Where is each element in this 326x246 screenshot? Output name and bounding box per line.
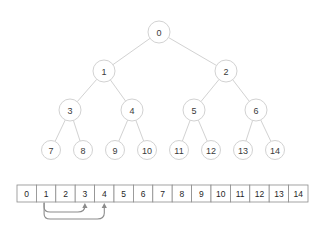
tree-edge-4-9	[119, 120, 128, 141]
tree-node-13: 13	[234, 141, 253, 160]
node-label-3: 3	[67, 106, 72, 116]
tree-node-4: 4	[121, 99, 143, 121]
array-cell-3: 3	[75, 185, 94, 202]
array-cell-label-0: 0	[24, 189, 29, 199]
array-cell-label-8: 8	[180, 189, 185, 199]
tree-edge-3-8	[73, 120, 80, 141]
binary-tree-array-figure: 01234567891011121314 0123456789101112131…	[0, 0, 326, 246]
pointer-arrow-1-to-3	[44, 203, 85, 212]
node-label-9: 9	[112, 146, 117, 156]
tree-edge-2-5	[201, 80, 219, 102]
node-label-4: 4	[129, 106, 134, 116]
pointer-arrow-1-to-4	[44, 203, 104, 219]
tree-edges-group	[55, 38, 271, 142]
array-cell-14: 14	[289, 185, 308, 202]
array-cell-label-2: 2	[63, 189, 68, 199]
node-label-6: 6	[253, 106, 258, 116]
array-cell-label-10: 10	[216, 189, 226, 199]
tree-node-14: 14	[266, 141, 285, 160]
tree-node-0: 0	[148, 21, 170, 43]
array-cell-label-5: 5	[121, 189, 126, 199]
array-cell-label-7: 7	[160, 189, 165, 199]
tree-edge-4-10	[136, 120, 144, 141]
array-cell-9: 9	[192, 185, 211, 202]
array-cell-4: 4	[95, 185, 114, 202]
tree-node-1: 1	[93, 60, 115, 82]
array-cell-7: 7	[153, 185, 172, 202]
array-cell-11: 11	[230, 185, 249, 202]
node-label-14: 14	[270, 146, 280, 156]
tree-node-8: 8	[74, 141, 93, 160]
array-cell-label-4: 4	[102, 189, 107, 199]
array-cell-6: 6	[133, 185, 152, 202]
pointer-arrowhead-3	[82, 203, 87, 208]
array-cells-group: 01234567891011121314	[17, 185, 308, 202]
array-cell-label-12: 12	[255, 189, 265, 199]
tree-node-7: 7	[42, 141, 61, 160]
tree-edge-5-12	[198, 120, 207, 141]
array-cell-label-11: 11	[236, 189, 245, 199]
array-cell-label-3: 3	[83, 189, 88, 199]
node-label-8: 8	[80, 146, 85, 156]
array-cell-0: 0	[17, 185, 36, 202]
pointer-arrows-group	[44, 203, 107, 219]
tree-node-12: 12	[202, 141, 221, 160]
tree-node-11: 11	[170, 141, 189, 160]
tree-edge-0-2	[169, 38, 217, 66]
tree-node-6: 6	[245, 99, 267, 121]
tree-edge-6-14	[261, 120, 271, 141]
node-label-13: 13	[238, 146, 248, 156]
node-label-7: 7	[48, 146, 53, 156]
tree-node-10: 10	[138, 141, 157, 160]
tree-edge-2-6	[233, 80, 250, 102]
tree-edge-6-13	[246, 120, 253, 141]
array-cell-13: 13	[269, 185, 288, 202]
node-label-12: 12	[206, 146, 216, 156]
tree-edge-1-3	[77, 79, 97, 101]
pointer-arrowhead-4	[102, 203, 107, 208]
node-label-1: 1	[101, 67, 106, 77]
tree-nodes-group: 01234567891011121314	[42, 21, 285, 160]
tree-node-2: 2	[215, 60, 237, 82]
tree-edge-0-1	[113, 38, 150, 64]
array-cell-label-1: 1	[44, 189, 49, 199]
node-label-10: 10	[142, 146, 152, 156]
tree-edge-3-7	[55, 120, 65, 141]
array-cell-label-9: 9	[199, 189, 204, 199]
array-cell-label-13: 13	[274, 189, 284, 199]
array-cell-1: 1	[36, 185, 55, 202]
array-cell-label-14: 14	[294, 189, 304, 199]
tree-node-5: 5	[183, 99, 205, 121]
array-cell-12: 12	[250, 185, 269, 202]
tree-node-9: 9	[106, 141, 125, 160]
array-cell-5: 5	[114, 185, 133, 202]
node-label-11: 11	[174, 146, 183, 156]
array-cell-2: 2	[56, 185, 75, 202]
node-label-5: 5	[191, 106, 196, 116]
array-cell-10: 10	[211, 185, 230, 202]
node-label-0: 0	[156, 28, 161, 38]
node-label-2: 2	[223, 67, 228, 77]
tree-edge-1-4	[110, 80, 125, 101]
array-cell-label-6: 6	[141, 189, 146, 199]
tree-node-3: 3	[59, 99, 81, 121]
array-cell-8: 8	[172, 185, 191, 202]
tree-edge-5-11	[182, 120, 190, 141]
